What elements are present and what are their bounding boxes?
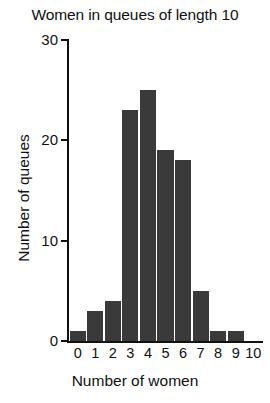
bar-slot <box>69 40 87 341</box>
y-tick-mark <box>61 139 68 141</box>
y-axis-title: Number of queues <box>16 108 32 288</box>
bar <box>175 160 191 341</box>
y-tick-label: 30 <box>6 32 58 47</box>
bar <box>87 311 103 341</box>
x-tick-label: 4 <box>139 345 157 362</box>
bar-slot <box>87 40 105 341</box>
bar-slot <box>122 40 140 341</box>
x-axis-ticks: 012345678910 <box>69 345 262 363</box>
bar <box>193 291 209 341</box>
bars-container <box>69 40 262 341</box>
y-tick-label: 10 <box>6 233 58 248</box>
y-tick-mark <box>61 39 68 41</box>
x-tick-label: 6 <box>174 345 192 362</box>
bar <box>157 150 173 341</box>
bar <box>140 90 156 341</box>
x-tick-label: 5 <box>157 345 175 362</box>
bar <box>70 331 86 341</box>
y-tick-label: 20 <box>6 132 58 147</box>
y-tick-label: 0 <box>6 333 58 348</box>
bar <box>122 110 138 341</box>
bar <box>228 331 244 341</box>
bar <box>105 301 121 341</box>
x-tick-label: 1 <box>87 345 105 362</box>
bar-slot <box>244 40 262 341</box>
chart-title: Women in queues of length 10 <box>0 5 270 24</box>
x-tick-label: 8 <box>209 345 227 362</box>
bar-slot <box>139 40 157 341</box>
bar-slot <box>157 40 175 341</box>
x-tick-label: 2 <box>104 345 122 362</box>
bar-slot <box>104 40 122 341</box>
x-tick-label: 10 <box>244 345 262 362</box>
x-axis-title: Number of women <box>0 371 270 390</box>
bar-chart: Women in queues of length 10 0102030 Num… <box>0 0 270 403</box>
bar-slot <box>227 40 245 341</box>
bar-slot <box>174 40 192 341</box>
x-tick-label: 0 <box>69 345 87 362</box>
bar-slot <box>209 40 227 341</box>
x-axis-line <box>67 341 263 343</box>
x-tick-label: 9 <box>227 345 245 362</box>
y-tick-mark <box>61 340 68 342</box>
bar-slot <box>192 40 210 341</box>
y-tick-mark <box>61 240 68 242</box>
x-tick-label: 7 <box>192 345 210 362</box>
bar <box>210 331 226 341</box>
x-tick-label: 3 <box>122 345 140 362</box>
